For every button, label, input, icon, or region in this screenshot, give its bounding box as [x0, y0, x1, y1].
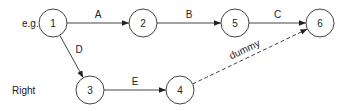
node-1: 1 [39, 9, 67, 37]
node-3: 3 [76, 76, 104, 104]
node-label: 2 [140, 18, 146, 29]
row-labels-layer: e.g.Right [12, 18, 39, 96]
node-5: 5 [221, 9, 249, 37]
edge-dummy [193, 29, 308, 84]
edge-label-c: C [274, 9, 281, 20]
row-label-right: Right [12, 85, 36, 96]
edge-label-e: E [132, 76, 139, 87]
node-4: 4 [166, 76, 194, 104]
row-label-eg: e.g. [22, 18, 39, 29]
edge-label-dummy: dummy [227, 37, 261, 61]
node-label: 3 [87, 85, 93, 96]
node-6: 6 [306, 9, 334, 37]
edge-label-d: D [76, 44, 83, 55]
edge-label-a: A [95, 9, 102, 20]
node-label: 5 [232, 18, 238, 29]
activity-network-diagram: ABCDEdummy 125634 e.g.Right [0, 0, 344, 111]
node-label: 1 [50, 18, 56, 29]
node-label: 6 [317, 18, 323, 29]
edge-label-b: B [186, 9, 193, 20]
edge-d [60, 35, 83, 77]
node-2: 2 [129, 9, 157, 37]
node-label: 4 [177, 85, 183, 96]
